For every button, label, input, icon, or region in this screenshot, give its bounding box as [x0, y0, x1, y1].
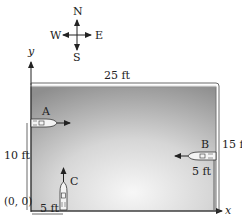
width-dimension-line [31, 83, 219, 86]
diagram-canvas [0, 0, 242, 222]
compass-north-label: N [73, 6, 83, 17]
compass-icon [63, 20, 91, 50]
compass-south-label: S [73, 52, 81, 63]
a-height-label: 10 ft [4, 150, 30, 161]
c-offset-label: 5 ft [40, 203, 59, 214]
pool [31, 87, 216, 212]
origin-label: (0, 0) [4, 196, 32, 207]
pool-height-label: 15 ft [222, 139, 242, 150]
compass-west-label: W [50, 30, 61, 41]
y-axis-label: y [28, 46, 34, 57]
boat-a-label: A [42, 106, 50, 117]
b-height-label: 5 ft [192, 166, 211, 177]
pool-width-label: 25 ft [104, 70, 130, 81]
x-axis-label: x [225, 205, 231, 216]
compass-east-label: E [95, 30, 103, 41]
boat-b-label: B [201, 139, 209, 150]
boat-c-label: C [70, 176, 78, 187]
